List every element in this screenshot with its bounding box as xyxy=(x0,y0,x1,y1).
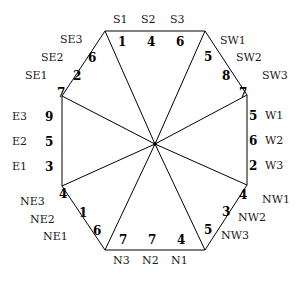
value-n2: 7 xyxy=(148,234,156,246)
value-n1: 4 xyxy=(177,234,185,246)
value-n3: 7 xyxy=(119,234,127,246)
label-se1: SE1 xyxy=(25,70,48,81)
label-s2: S2 xyxy=(141,14,156,25)
value-s1: 1 xyxy=(118,36,126,48)
value-se3: 6 xyxy=(88,52,96,64)
value-e2: 5 xyxy=(45,136,53,148)
value-nw2: 3 xyxy=(222,206,230,218)
diagram-canvas: S1 S2 S3 1 4 6 SW1 SW2 SW3 5 8 7 W1 W2 W… xyxy=(0,0,308,281)
label-w1: W1 xyxy=(265,110,283,121)
value-w2: 6 xyxy=(249,135,257,147)
label-ne2: NE2 xyxy=(30,214,55,225)
value-nw3: 5 xyxy=(204,224,212,236)
label-e2: E2 xyxy=(12,136,27,147)
label-n2: N2 xyxy=(142,255,159,266)
spoke-e-top xyxy=(155,95,247,144)
value-nw1: 4 xyxy=(239,189,247,201)
value-ne1: 6 xyxy=(93,225,101,237)
label-e1: E1 xyxy=(12,161,27,172)
value-s2: 4 xyxy=(147,36,155,48)
spoke-e-bottom xyxy=(155,144,247,185)
label-e3: E3 xyxy=(12,111,27,122)
label-sw2: SW2 xyxy=(236,52,262,63)
label-s3: S3 xyxy=(170,14,185,25)
label-w3: W3 xyxy=(265,160,283,171)
label-se2: SE2 xyxy=(41,52,64,63)
label-ne1: NE1 xyxy=(43,231,68,242)
label-sw1: SW1 xyxy=(220,35,246,46)
value-sw2: 8 xyxy=(222,70,230,82)
value-w1: 5 xyxy=(249,110,257,122)
value-se2: 2 xyxy=(73,70,81,82)
label-n3: N3 xyxy=(113,255,130,266)
value-e3: 9 xyxy=(45,111,53,123)
label-nw2: NW2 xyxy=(238,212,266,223)
value-sw3: 7 xyxy=(239,87,247,99)
value-se1: 7 xyxy=(57,87,65,99)
value-s3: 6 xyxy=(176,36,184,48)
value-e1: 3 xyxy=(45,161,53,173)
label-se3: SE3 xyxy=(60,34,83,45)
spoke-w-bottom xyxy=(62,144,155,186)
value-ne3: 4 xyxy=(59,188,67,200)
label-sw3: SW3 xyxy=(262,70,288,81)
label-nw1: NW1 xyxy=(262,194,290,205)
label-ne3: NE3 xyxy=(20,196,45,207)
center-point xyxy=(154,143,157,146)
spoke-w-top xyxy=(62,96,155,144)
value-sw1: 5 xyxy=(204,51,212,63)
label-nw3: NW3 xyxy=(221,230,249,241)
label-w2: W2 xyxy=(265,135,283,146)
label-n1: N1 xyxy=(171,255,188,266)
label-s1: S1 xyxy=(113,14,128,25)
value-ne2: 1 xyxy=(79,207,87,219)
value-w3: 2 xyxy=(249,160,257,172)
